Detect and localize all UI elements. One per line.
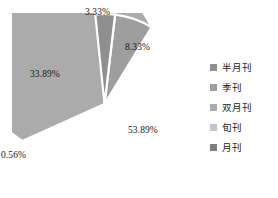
legend-item-label: 季刊: [222, 80, 242, 94]
chart-legend: 半月刊 季刊 双月刊 旬刊 月刊: [210, 57, 276, 157]
legend-item-banyuekan[interactable]: 半月刊: [210, 57, 276, 77]
pie-chart-figure: 3.33% 8.33% 53.89% 0.56% 33.89% 半月刊 季刊 双…: [0, 0, 278, 198]
pie-chart-svg: [12, 13, 197, 195]
pie-label-jikan: 8.33%: [125, 42, 150, 52]
legend-item-jikan[interactable]: 季刊: [210, 77, 276, 97]
legend-item-xunkan[interactable]: 旬刊: [210, 117, 276, 137]
pie-label-xunkan: 0.56%: [1, 150, 26, 160]
legend-swatch-icon: [210, 64, 217, 71]
legend-swatch-icon: [210, 84, 217, 91]
legend-swatch-icon: [210, 124, 217, 131]
legend-item-shuangyuekan[interactable]: 双月刊: [210, 97, 276, 117]
legend-item-label: 月刊: [222, 140, 242, 154]
legend-swatch-icon: [210, 104, 217, 111]
legend-item-label: 双月刊: [222, 100, 252, 114]
legend-swatch-icon: [210, 144, 217, 151]
pie-label-yuekan: 33.89%: [30, 69, 60, 79]
legend-item-label: 旬刊: [222, 120, 242, 134]
legend-item-yuekan[interactable]: 月刊: [210, 137, 276, 157]
pie-label-banyuekan: 3.33%: [85, 7, 110, 17]
pie-chart-plot-area: 3.33% 8.33% 53.89% 0.56% 33.89%: [12, 13, 197, 195]
pie-label-shuangyuekan: 53.89%: [128, 125, 158, 135]
legend-item-label: 半月刊: [222, 60, 252, 74]
